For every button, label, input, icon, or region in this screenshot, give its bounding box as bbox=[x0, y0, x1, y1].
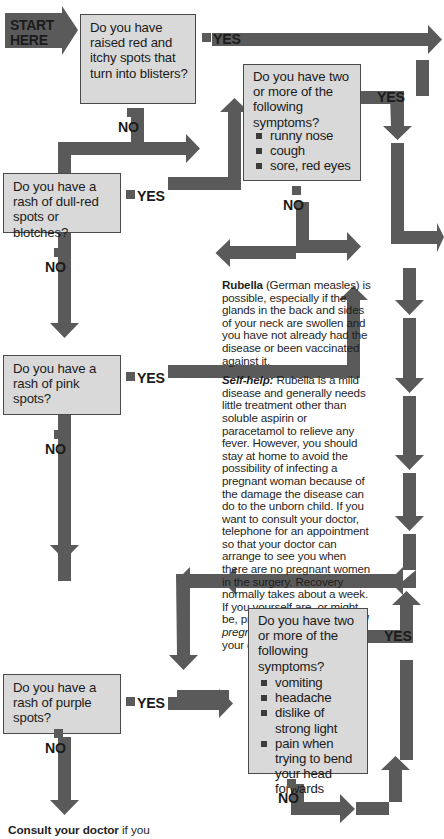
arrow-q1-no bbox=[131, 108, 200, 163]
self-help-label: Self-help: bbox=[222, 373, 273, 386]
start-line-2: HERE bbox=[10, 32, 48, 48]
yes-marker-cold-symptoms bbox=[366, 91, 375, 100]
question-box-meningitis[interactable]: Do you have two or more of the following… bbox=[248, 608, 368, 774]
arrow-right-lower bbox=[400, 660, 413, 745]
arrow-right-col-c bbox=[395, 396, 424, 470]
footer-advice: Consult your doctor if you bbox=[8, 824, 308, 837]
start-line-1: START bbox=[10, 17, 54, 33]
arrow-right-col-a bbox=[395, 268, 424, 315]
arrow-farright-down bbox=[416, 60, 429, 96]
arrow-q3-no-to-merge bbox=[58, 545, 71, 581]
symptom-item: runny nose bbox=[255, 128, 356, 143]
arrow-q3-no bbox=[50, 396, 79, 560]
arrow-merge-right bbox=[403, 570, 416, 588]
symptom-item: vomiting bbox=[260, 675, 363, 690]
yes-marker-dull-red bbox=[126, 190, 135, 199]
rubella-lead-paragraph: Rubella (German measles) is possible, es… bbox=[222, 279, 372, 367]
arrow-right-col-e bbox=[403, 534, 416, 570]
arrow-merge-down-left bbox=[169, 574, 198, 670]
question-box-dull-red[interactable]: Do you have a rash of dull-red spots or … bbox=[3, 173, 121, 233]
arrow-right-col-b bbox=[395, 318, 424, 393]
arrow-merge-head-far bbox=[389, 567, 403, 595]
yes-label-purple: YES bbox=[137, 695, 165, 711]
no-marker-pink bbox=[54, 430, 63, 439]
arrow-right-elbow bbox=[391, 143, 404, 244]
question-text-purple: Do you have a rash of purple spots? bbox=[13, 680, 115, 726]
yes-marker-meningitis bbox=[373, 630, 382, 639]
start-here-label: START HERE bbox=[10, 18, 54, 48]
question-box-blisters[interactable]: Do you have raised red and itchy spots t… bbox=[80, 14, 196, 104]
yes-marker-purple bbox=[126, 697, 135, 706]
question-text-cold-symptoms: Do you have two or more of the following… bbox=[253, 69, 355, 130]
no-label-dull-red: NO bbox=[45, 259, 66, 275]
no-marker-cold-symptoms bbox=[292, 186, 301, 195]
flowchart-canvas: START HERE Do you have raised red and it… bbox=[0, 0, 444, 839]
symptom-item: headache bbox=[260, 690, 363, 705]
arrow-q1-no-join bbox=[58, 142, 131, 155]
question-text-dull-red: Do you have a rash of dull-red spots or … bbox=[13, 179, 115, 240]
footer-rest-text: if you bbox=[119, 823, 150, 837]
yes-label-blisters: YES bbox=[213, 31, 241, 47]
no-marker-blisters bbox=[127, 108, 136, 117]
arrow-cold-no-elbow bbox=[216, 239, 297, 267]
arrow-right-lower-b bbox=[400, 745, 413, 760]
arrow-right-col-d bbox=[395, 473, 424, 531]
self-help-text-1: Rubella is a mild disease and generally … bbox=[222, 373, 370, 625]
symptom-item: cough bbox=[255, 143, 356, 158]
yes-marker-pink bbox=[126, 372, 135, 381]
symptom-item: sore, red eyes bbox=[255, 158, 356, 173]
no-marker-purple bbox=[54, 729, 63, 738]
no-label-cold-symptoms: NO bbox=[283, 197, 304, 213]
question-text-meningitis: Do you have two or more of the following… bbox=[258, 613, 362, 674]
question-text-pink: Do you have a rash of pink spots? bbox=[13, 361, 115, 407]
symptom-list-meningitis: vomiting headache dislike of strong ligh… bbox=[260, 675, 363, 797]
question-box-purple[interactable]: Do you have a rash of purple spots? bbox=[3, 674, 121, 734]
yes-label-pink: YES bbox=[137, 370, 165, 386]
rubella-heading: Rubella bbox=[222, 278, 263, 291]
symptom-list-cold: runny nose cough sore, red eyes bbox=[255, 128, 356, 174]
no-label-blisters: NO bbox=[118, 119, 139, 135]
question-text-blisters: Do you have raised red and itchy spots t… bbox=[90, 20, 190, 81]
arrow-q1-yes bbox=[212, 25, 442, 54]
symptom-item: dislike of strong light bbox=[260, 705, 363, 735]
no-marker-meningitis bbox=[287, 779, 296, 788]
footer-bold-text: Consult your doctor bbox=[8, 823, 119, 837]
yes-label-meningitis: YES bbox=[384, 628, 412, 644]
rubella-article: Rubella (German measles) is possible, es… bbox=[222, 279, 372, 658]
arrow-q5-yes-right bbox=[177, 690, 229, 703]
yes-marker-blisters bbox=[202, 33, 211, 42]
no-label-meningitis: NO bbox=[278, 790, 299, 806]
question-box-cold-symptoms[interactable]: Do you have two or more of the following… bbox=[243, 64, 361, 181]
rubella-lead-text: (German measles) is possible, especially… bbox=[222, 278, 371, 367]
question-box-pink[interactable]: Do you have a rash of pink spots? bbox=[3, 355, 121, 415]
yes-label-cold-symptoms: YES bbox=[377, 89, 405, 105]
no-label-purple: NO bbox=[45, 740, 66, 756]
yes-label-dull-red: YES bbox=[137, 188, 165, 204]
arrow-cold-no-head bbox=[333, 232, 361, 261]
no-label-pink: NO bbox=[45, 441, 66, 457]
symptom-item: pain when trying to bend your head forwa… bbox=[260, 736, 363, 797]
no-marker-dull-red bbox=[54, 248, 63, 257]
